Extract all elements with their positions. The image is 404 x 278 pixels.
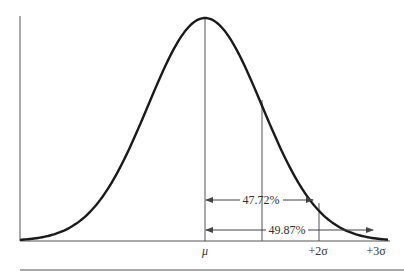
annotation-49-87: 49.87% [269, 223, 306, 237]
label-plus2sigma: +2σ [308, 244, 328, 258]
normal-distribution-figure: 47.72% 49.87% μ +2σ +3σ [0, 0, 404, 278]
label-plus3sigma: +3σ [366, 244, 386, 258]
annotation-47-72: 47.72% [243, 193, 280, 207]
bell-curve [20, 18, 388, 240]
label-mu: μ [201, 244, 208, 258]
